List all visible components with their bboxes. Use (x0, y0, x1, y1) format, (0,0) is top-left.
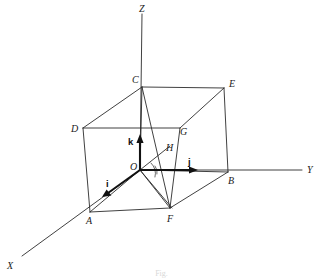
vertex-label-c: C (132, 75, 139, 85)
vertex-label-o: O (130, 162, 137, 172)
box-edge-gf (170, 128, 180, 208)
unit-vector-label-k: k (128, 137, 133, 147)
unit-vector-j-arrowhead (189, 167, 198, 174)
box-edge-da (83, 128, 90, 212)
axis-label-y: Y (307, 165, 313, 175)
box-edge-eg (180, 88, 224, 128)
unit-vector-label-j: j (188, 157, 191, 167)
vertex-label-g: G (180, 127, 187, 137)
vertex-label-e: E (229, 79, 235, 89)
box-edge-dc (83, 87, 142, 128)
box-edge-bf (170, 172, 228, 208)
vertex-label-b: B (228, 176, 234, 186)
unit-vector-k-arrowhead (136, 134, 143, 143)
box-edge-eb (224, 88, 228, 172)
vertex-label-h: H (166, 143, 173, 153)
unit-vector-label-i: i (106, 179, 109, 189)
unit-vector-i-shaft (108, 170, 140, 193)
diagonal-oh-f (140, 170, 172, 208)
box-edge-ce (142, 87, 224, 88)
vertex-label-f: F (167, 214, 173, 224)
vertex-label-a: A (86, 216, 92, 226)
figure-caption: Fig. (0, 270, 323, 278)
axis-label-z: Z (139, 4, 145, 14)
vertex-label-d: D (71, 124, 78, 134)
box-edge-fa (90, 208, 170, 212)
